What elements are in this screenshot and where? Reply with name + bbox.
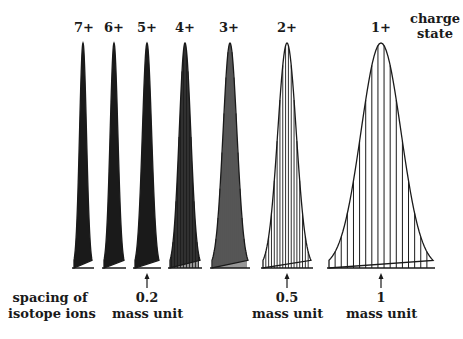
- annotation-value: 0.5: [252, 290, 322, 306]
- charge-label-1: 1+: [367, 20, 395, 35]
- peak-3plus: [210, 43, 250, 268]
- legend-line-1: charge: [410, 11, 460, 26]
- peak-1plus: [327, 43, 435, 268]
- annotation-0.2: 0.2 mass unit: [112, 290, 182, 322]
- isotope-peaks-diagram: [0, 0, 463, 339]
- legend-charge-state: charge state: [410, 11, 460, 41]
- annotation-value: 1: [346, 290, 416, 306]
- charge-label-3: 3+: [215, 20, 243, 35]
- arrow-up-icon: [145, 273, 150, 288]
- annotation-value: 0.2: [112, 290, 182, 306]
- spacing-label: spacing of isotope ions: [8, 290, 92, 322]
- annotation-1: 1 mass unit: [346, 290, 416, 322]
- peak-4plus: [168, 43, 202, 268]
- annotation-unit: mass unit: [112, 306, 182, 322]
- annotation-unit: mass unit: [346, 306, 416, 322]
- peak-6plus: [102, 43, 126, 268]
- annotation-unit: mass unit: [252, 306, 322, 322]
- spacing-label-line-2: isotope ions: [8, 306, 92, 322]
- charge-label-5: 5+: [133, 20, 161, 35]
- peak-7plus: [72, 43, 94, 268]
- charge-label-4: 4+: [171, 20, 199, 35]
- peak-5plus: [133, 43, 161, 268]
- charge-label-6: 6+: [100, 20, 128, 35]
- charge-label-7: 7+: [70, 20, 98, 35]
- arrow-up-icon: [285, 273, 290, 288]
- spacing-label-line-1: spacing of: [8, 290, 92, 306]
- peak-2plus: [261, 43, 313, 268]
- annotation-0.5: 0.5 mass unit: [252, 290, 322, 322]
- charge-label-2: 2+: [273, 20, 301, 35]
- legend-line-2: state: [410, 26, 460, 41]
- arrow-up-icon: [379, 273, 384, 288]
